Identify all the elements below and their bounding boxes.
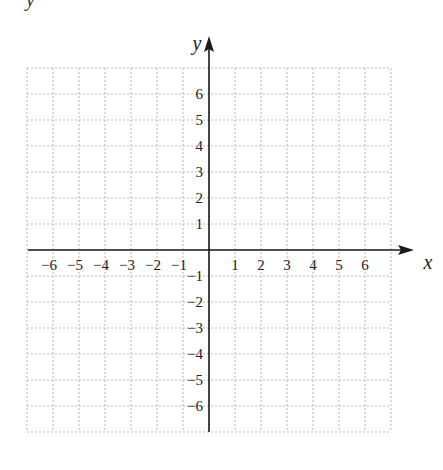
x-tick-label: 5 (335, 257, 343, 273)
x-tick-label: 1 (231, 257, 239, 273)
y-tick-label: −4 (187, 346, 203, 362)
y-tick-label: 5 (196, 112, 204, 128)
y-tick-label: −2 (187, 294, 203, 310)
x-tick-label: −6 (41, 257, 57, 273)
x-tick-label: 2 (257, 257, 265, 273)
x-tick-label: −3 (119, 257, 135, 273)
x-tick-label: −5 (67, 257, 83, 273)
x-tick-label: −2 (145, 257, 161, 273)
y-axis-label: y (191, 32, 202, 55)
y-tick-label: 2 (196, 190, 204, 206)
x-axis-label: x (423, 251, 433, 273)
x-tick-label: 4 (309, 257, 317, 273)
y-tick-label: −5 (187, 372, 203, 388)
y-tick-label: 3 (196, 164, 204, 180)
x-tick-label: 6 (361, 257, 369, 273)
x-tick-label: −1 (171, 257, 187, 273)
coordinate-plane: xy−6−5−4−3−2−1123456654321−1−2−3−4−5−6 (0, 0, 443, 470)
y-tick-label: 1 (196, 216, 204, 232)
y-tick-label: −3 (187, 320, 203, 336)
x-tick-label: 3 (283, 257, 291, 273)
y-tick-label: 6 (196, 86, 204, 102)
x-tick-label: −4 (93, 257, 109, 273)
y-tick-label: 4 (196, 138, 204, 154)
y-tick-label: −6 (187, 398, 203, 414)
y-tick-label: −1 (187, 268, 203, 284)
